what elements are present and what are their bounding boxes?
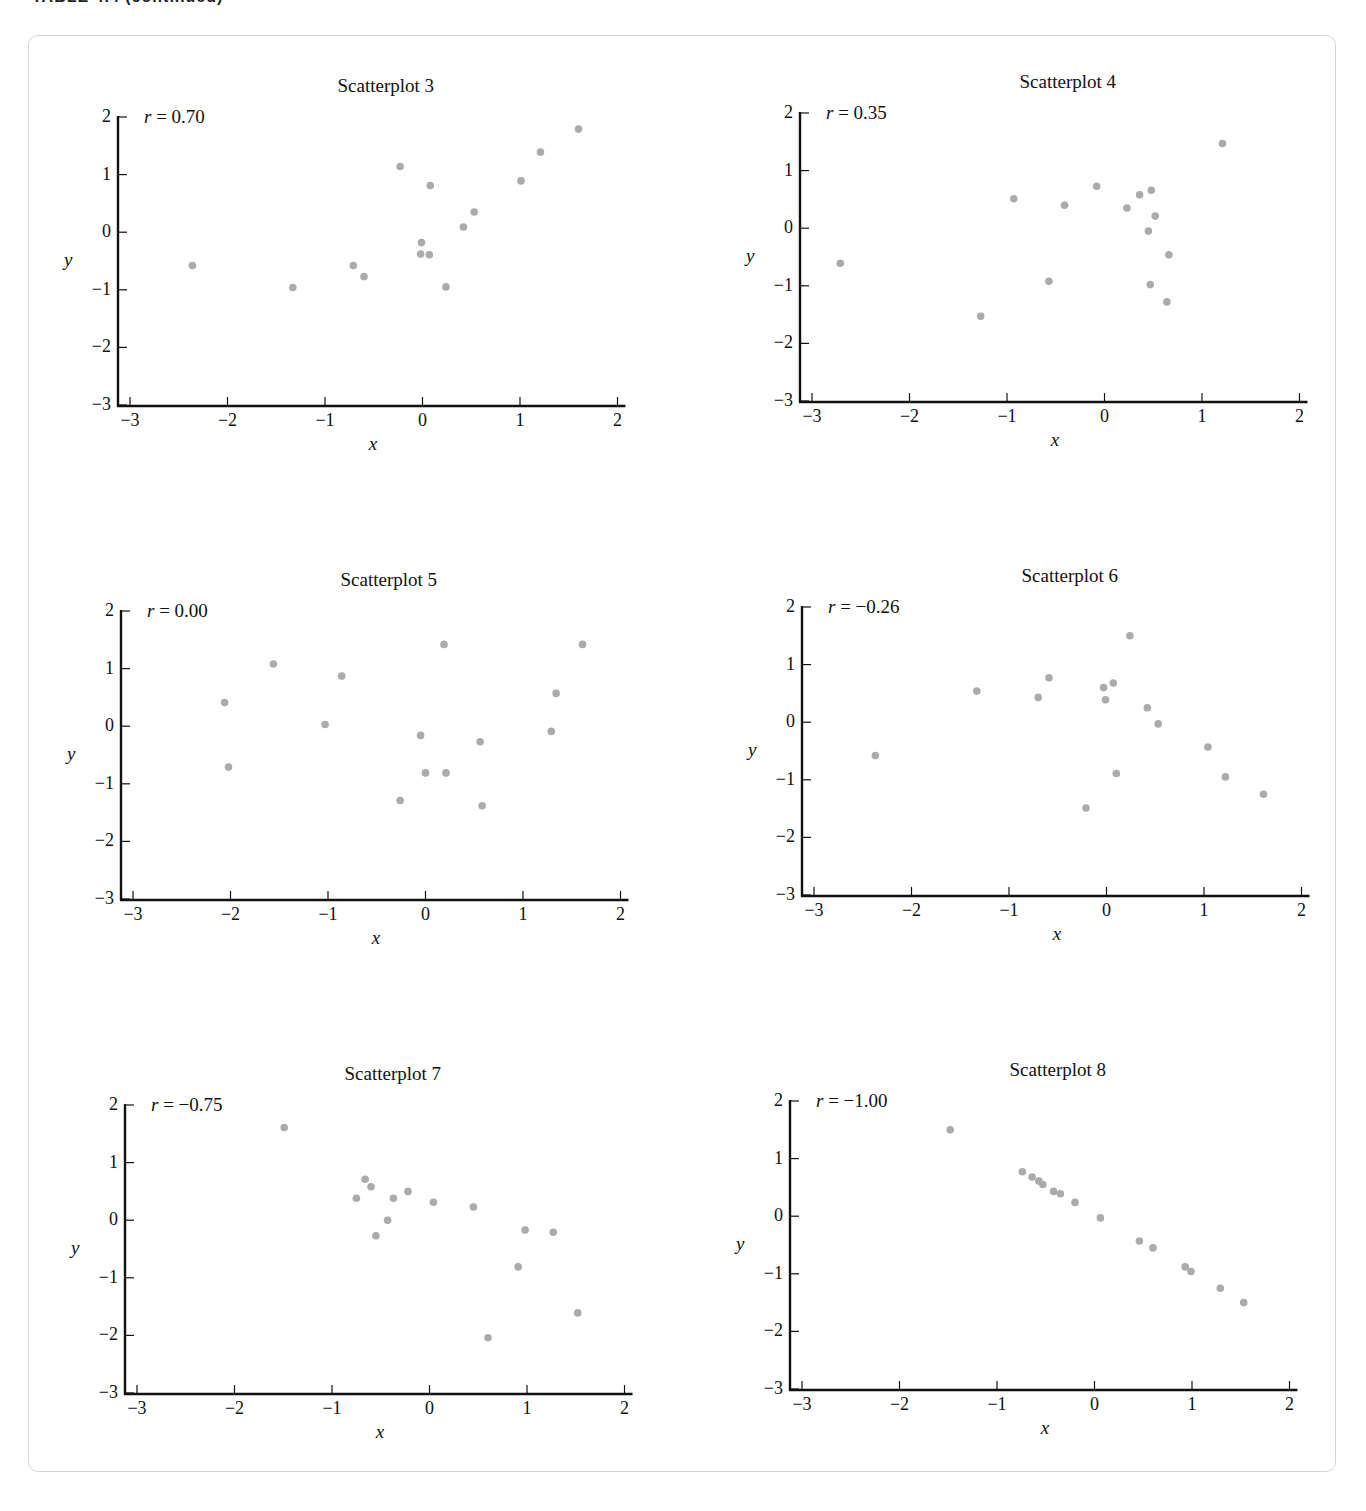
x-tick-label: −3 — [804, 900, 823, 921]
x-tick-label: −3 — [123, 904, 142, 925]
chart-title: Scatterplot 7 — [344, 1063, 441, 1085]
x-tick-label: 0 — [425, 1398, 434, 1419]
data-point — [1136, 191, 1144, 199]
data-point — [280, 1124, 288, 1132]
x-tick-label: 2 — [613, 410, 622, 431]
y-tick-label: −3 — [774, 390, 793, 411]
y-tick-label: −3 — [95, 888, 114, 909]
data-point — [476, 738, 484, 746]
data-point — [579, 641, 587, 649]
data-point — [837, 260, 845, 268]
data-point — [1154, 720, 1162, 728]
x-tick-label: −1 — [999, 900, 1018, 921]
plot-area — [125, 1105, 637, 1399]
x-axis-label: x — [376, 1421, 384, 1443]
y-tick-label: 1 — [105, 658, 114, 679]
scatterplot-6: Scatterplot 6r = −0.26210−1−2−3−3−2−1012… — [802, 607, 1366, 1027]
data-point — [946, 1126, 954, 1134]
plot-area — [118, 117, 630, 411]
y-tick-label: −3 — [776, 884, 795, 905]
chart-title: Scatterplot 4 — [1019, 71, 1116, 93]
x-tick-label: 1 — [516, 410, 525, 431]
x-tick-label: −2 — [225, 1398, 244, 1419]
data-point — [427, 182, 435, 190]
plot-area — [802, 607, 1314, 901]
y-tick-label: 2 — [102, 106, 111, 127]
data-point — [372, 1232, 380, 1240]
y-tick-label: 2 — [774, 1090, 783, 1111]
data-point — [1061, 201, 1069, 209]
x-axis-label: x — [1053, 923, 1061, 945]
data-point — [1097, 1214, 1105, 1222]
y-axis-label: y — [71, 1237, 79, 1259]
data-point — [1260, 790, 1268, 798]
x-tick-label: −2 — [902, 900, 921, 921]
y-tick-label: −2 — [764, 1320, 783, 1341]
y-tick-label: −2 — [774, 332, 793, 353]
y-axis-label: y — [746, 245, 754, 267]
data-point — [1093, 182, 1101, 190]
x-tick-label: 0 — [418, 410, 427, 431]
data-point — [396, 797, 404, 805]
data-point — [977, 313, 985, 321]
data-point — [417, 732, 425, 740]
data-point — [1045, 277, 1053, 285]
data-point — [548, 728, 556, 736]
data-point — [360, 273, 368, 281]
x-tick-label: 1 — [1198, 406, 1207, 427]
y-tick-label: −1 — [92, 279, 111, 300]
y-tick-label: −3 — [92, 394, 111, 415]
table-header: TABLE 4.4 (continued) — [32, 0, 223, 6]
y-axis-label: y — [64, 249, 72, 271]
data-point — [1149, 1244, 1157, 1252]
x-tick-label: 0 — [1100, 406, 1109, 427]
y-tick-label: −2 — [92, 336, 111, 357]
y-tick-label: 2 — [105, 600, 114, 621]
x-axis-label: x — [1051, 429, 1059, 451]
data-point — [350, 262, 358, 270]
data-point — [470, 1203, 478, 1211]
data-point — [353, 1195, 361, 1203]
y-tick-label: 2 — [784, 102, 793, 123]
x-tick-label: 0 — [1090, 1394, 1099, 1415]
x-axis-label: x — [369, 433, 377, 455]
x-tick-label: 1 — [1200, 900, 1209, 921]
data-point — [422, 769, 430, 777]
x-tick-label: 1 — [519, 904, 528, 925]
y-tick-label: 1 — [774, 1148, 783, 1169]
data-point — [321, 721, 329, 729]
data-point — [1034, 694, 1042, 702]
data-point — [1102, 696, 1110, 704]
data-point — [1082, 804, 1090, 812]
data-point — [1240, 1299, 1248, 1307]
y-axis-label: y — [736, 1233, 744, 1255]
y-tick-label: 0 — [102, 221, 111, 242]
y-tick-label: 1 — [102, 164, 111, 185]
x-tick-label: 0 — [421, 904, 430, 925]
x-axis-label: x — [372, 927, 380, 949]
y-tick-label: 0 — [784, 217, 793, 238]
y-axis-label: y — [748, 739, 756, 761]
data-point — [1071, 1199, 1079, 1207]
y-tick-label: −1 — [95, 773, 114, 794]
x-tick-label: −3 — [792, 1394, 811, 1415]
x-tick-label: 2 — [1285, 1394, 1294, 1415]
data-point — [1151, 212, 1159, 220]
y-tick-label: −1 — [774, 275, 793, 296]
data-point — [1045, 674, 1053, 682]
data-point — [517, 177, 525, 185]
data-point — [418, 239, 426, 247]
y-axis-label: y — [67, 743, 75, 765]
data-point — [484, 1334, 492, 1342]
y-tick-label: 0 — [109, 1209, 118, 1230]
data-point — [189, 262, 197, 270]
y-tick-label: 1 — [786, 654, 795, 675]
data-point — [1217, 1284, 1225, 1292]
chart-title: Scatterplot 5 — [340, 569, 437, 591]
scatterplot-4: Scatterplot 4r = 0.35210−1−2−3−3−2−1012x… — [800, 113, 1366, 533]
data-point — [537, 148, 545, 156]
x-tick-label: −3 — [127, 1398, 146, 1419]
data-point — [872, 752, 880, 760]
data-point — [225, 763, 233, 771]
x-tick-label: 1 — [1188, 1394, 1197, 1415]
